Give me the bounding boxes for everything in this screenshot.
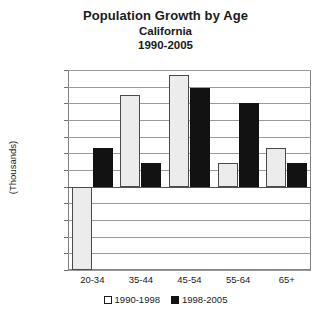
bars-layer [68,70,311,270]
bar [72,187,92,270]
bar [93,148,113,187]
plot-area: 1,4001,2001,0008006004002000-200-400-600… [68,70,311,270]
legend-label: 1990-1998 [115,294,160,305]
legend-item[interactable]: 1990-1998 [104,294,160,305]
bar-group [68,70,117,270]
bar [239,103,259,186]
x-tick-label: 35-44 [117,274,166,285]
x-axis-labels: 20-3435-4445-5455-6465+ [68,274,311,288]
chart-subtitle: California [0,24,331,38]
legend-swatch-icon [171,296,179,304]
chart-subtitle-period: 1990-2005 [0,38,331,52]
legend-item[interactable]: 1998-2005 [171,294,227,305]
bar [169,75,189,187]
bar-group [117,70,166,270]
gridline [68,270,311,271]
x-tick-label: 65+ [262,274,311,285]
chart-legend: 1990-19981998-2005 [0,294,331,305]
bar [190,88,210,187]
bar [287,163,307,187]
bar-group [262,70,311,270]
y-tick-mark [64,270,68,271]
chart-title-block: Population Growth by Age California 1990… [0,8,331,52]
legend-swatch-icon [104,296,112,304]
bar [266,148,286,187]
bar-group [165,70,214,270]
bar [120,95,140,187]
x-tick-label: 45-54 [165,274,214,285]
x-tick-label: 55-64 [214,274,263,285]
x-tick-label: 20-34 [68,274,117,285]
y-axis-title: (Thousands) [2,122,24,212]
bar [141,163,161,187]
y-axis-title-text: (Thousands) [8,140,19,193]
bar [218,163,238,187]
bar-group [214,70,263,270]
chart-title: Population Growth by Age [0,8,331,24]
legend-label: 1998-2005 [182,294,227,305]
population-growth-bar-chart: Population Growth by Age California 1990… [0,0,331,317]
